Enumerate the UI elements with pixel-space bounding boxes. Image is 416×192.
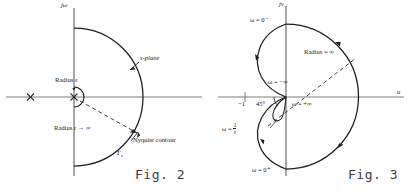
fig3-direction-arrows (255, 42, 343, 148)
arrow-lower-left-icon (260, 139, 264, 145)
fig3-omega-zero-minus-label: ω = 0⁻ (250, 17, 269, 24)
figure-3-drawing (208, 0, 416, 192)
figure-2-drawing (0, 0, 208, 192)
fig3-real-axis-label: u (397, 89, 400, 96)
fig3-omega-zero-plus-label: ω = 0⁺ (252, 167, 271, 174)
figure-3-caption: Fig. 3 (348, 168, 398, 181)
figure-2: jω s-plane Radius ε Radius r → ∞ Nyquist… (0, 0, 208, 192)
fig3-omega-plus-infinity-label: ω = +∞ (292, 101, 312, 108)
fig3-imaginary-axis-label: jv (279, 1, 284, 8)
figure-2-caption: Fig. 2 (135, 168, 185, 181)
fig3-omega-tau-fraction: 1 τ (233, 122, 236, 136)
fig3-upper-lobe (257, 24, 286, 97)
fig3-omega-tau-label: ω = 1 τ (222, 122, 236, 136)
fig2-s-plane-arrow-icon (130, 67, 136, 70)
fig2-nyquist-contour-label: Nyquist contour (133, 137, 176, 144)
fig3-radius-infinity-label: Radius = ∞ (304, 49, 334, 56)
fig2-gamma-label: Γs (117, 150, 123, 159)
fig3-lower-lobe (257, 97, 286, 169)
fig2-radius-r-label: Radius r → ∞ (54, 125, 91, 132)
fig3-infinite-radius-arc (286, 24, 359, 169)
fig3-omega-minus-infinity-label: ω = −∞ (268, 79, 288, 86)
figure-3: jv u ω = 0⁻ ω = 0⁺ ω = −∞ ω = +∞ Radius … (208, 0, 416, 192)
fig3-angle-label: 45° (256, 101, 265, 108)
fig2-s-plane-label: s-plane (140, 55, 159, 62)
fig3-radius-infinity-leader (268, 58, 356, 126)
fig2-radius-epsilon-label: Radius ε (55, 77, 78, 84)
arrow-lower-right-icon (338, 143, 343, 148)
fig2-imaginary-axis-label: jω (61, 2, 68, 9)
fig3-minus-one-label: −1 (238, 101, 245, 108)
